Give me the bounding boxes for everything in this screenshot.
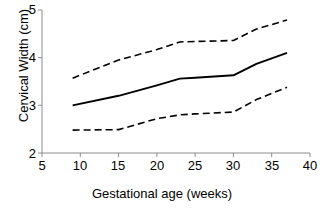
- y-axis-ticks: [38, 10, 42, 153]
- data-series: [73, 20, 287, 130]
- series-mean: [73, 53, 287, 105]
- plot-area: [0, 0, 324, 209]
- series-upper-limit: [73, 20, 287, 78]
- x-axis-ticks: [42, 153, 310, 157]
- axis-lines: [42, 10, 310, 153]
- cervical-width-chart: Cervical Width (cm) 5 4 3 2 5 10 15 20 2…: [0, 0, 324, 209]
- series-lower-limit: [73, 87, 287, 130]
